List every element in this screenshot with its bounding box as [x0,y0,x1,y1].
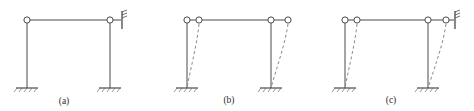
panel-a-left-joint-hinge [24,17,30,23]
panel-b-right-fixed-support [258,88,282,92]
panel-c-caption: (c) [386,95,397,106]
panel-c-right-joint-hinge [425,17,431,23]
panel-b-caption: (b) [223,95,234,106]
panel-c-left-displaced-hinge [354,17,360,23]
panel-c-right-displaced-hinge [443,17,449,23]
panel-c-spring-support-icon [449,10,460,29]
panel-b-right-joint-hinge [268,17,274,23]
panel-a-caption: (a) [59,96,70,107]
panel-c-left-column-deformed [345,24,357,88]
panel-b-right-column-deformed [271,24,288,88]
panel-b-left-joint-hinge [184,17,190,23]
panel-b-left-fixed-support [174,88,198,92]
panel-c-left-fixed-support [332,88,356,92]
structural-frame-figure: (a) [0,0,474,111]
panel-c-left-joint-hinge [342,17,348,23]
panel-b-left-column-deformed [187,24,199,88]
panel-a: (a) [14,10,127,107]
panel-c: (c) [332,10,460,106]
panel-a-right-fixed-support [97,88,121,92]
panel-b: (b) [174,17,291,106]
panel-a-left-fixed-support [14,88,38,92]
panel-a-right-joint-hinge [107,17,113,23]
panel-c-right-fixed-support [415,88,439,92]
panel-b-right-displaced-hinge [285,17,291,23]
panel-c-right-column-deformed [428,24,446,88]
panel-b-left-displaced-hinge [196,17,202,23]
panel-a-spring-support-icon [113,10,127,29]
